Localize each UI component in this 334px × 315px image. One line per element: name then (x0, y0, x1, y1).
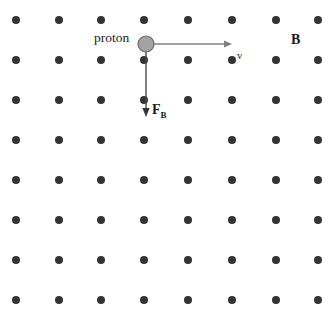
field-dot (228, 56, 236, 64)
field-dot (55, 256, 63, 264)
field-dot (184, 256, 192, 264)
force-vector-arrowhead (142, 108, 149, 117)
field-dot (97, 16, 105, 24)
field-dot (184, 56, 192, 64)
field-dot (184, 176, 192, 184)
field-dot (228, 96, 236, 104)
field-dot (140, 176, 148, 184)
field-dot (228, 296, 236, 304)
figure-vector-layer (0, 0, 334, 315)
field-dot (12, 56, 20, 64)
velocity-vector (154, 41, 232, 48)
field-dot (314, 96, 322, 104)
field-dot (140, 56, 148, 64)
field-dot (140, 96, 148, 104)
field-dot (272, 176, 280, 184)
field-dot (55, 16, 63, 24)
proton-label: proton (94, 31, 129, 45)
field-dot (228, 16, 236, 24)
velocity-vector-arrowhead (224, 41, 232, 48)
field-dot (184, 216, 192, 224)
force-subscript: B (161, 110, 167, 120)
field-dot (272, 136, 280, 144)
field-dot (97, 56, 105, 64)
force-symbol: F (152, 102, 161, 117)
field-dot (314, 296, 322, 304)
field-dot (228, 176, 236, 184)
field-dot (97, 176, 105, 184)
field-dot (314, 136, 322, 144)
field-dot (12, 296, 20, 304)
field-dot (140, 256, 148, 264)
field-dot (272, 216, 280, 224)
field-dot (140, 216, 148, 224)
field-dot (314, 256, 322, 264)
field-dot (97, 216, 105, 224)
field-dot (314, 16, 322, 24)
field-dot (55, 56, 63, 64)
magnetic-field-dot-grid (12, 16, 322, 304)
field-dot (184, 136, 192, 144)
field-dot (272, 56, 280, 64)
field-dot (12, 256, 20, 264)
field-dot (228, 216, 236, 224)
field-dot (272, 96, 280, 104)
field-dot (55, 136, 63, 144)
field-dot (314, 176, 322, 184)
field-dot (140, 296, 148, 304)
field-dot (272, 296, 280, 304)
field-dot (12, 136, 20, 144)
proton-particle (138, 36, 154, 52)
field-dot (184, 296, 192, 304)
field-dot (184, 16, 192, 24)
field-dot (314, 216, 322, 224)
field-dot (97, 256, 105, 264)
field-dot (314, 56, 322, 64)
field-dot (55, 296, 63, 304)
field-dot (228, 256, 236, 264)
field-dot (140, 16, 148, 24)
field-dot (140, 136, 148, 144)
field-dot (228, 136, 236, 144)
field-dot (272, 256, 280, 264)
magnetic-force-label: FB (152, 103, 167, 120)
field-dot (12, 216, 20, 224)
field-dot (12, 16, 20, 24)
field-dot (272, 16, 280, 24)
field-dot (97, 136, 105, 144)
field-dot (12, 96, 20, 104)
physics-figure-canvas: proton v FB B (0, 0, 334, 315)
field-dot (97, 296, 105, 304)
field-dot (55, 216, 63, 224)
field-dot (55, 176, 63, 184)
field-dot (97, 96, 105, 104)
field-dot (12, 176, 20, 184)
field-dot (184, 96, 192, 104)
magnetic-field-label: B (291, 33, 300, 47)
field-dot (55, 96, 63, 104)
velocity-vector-label: v (237, 51, 242, 62)
